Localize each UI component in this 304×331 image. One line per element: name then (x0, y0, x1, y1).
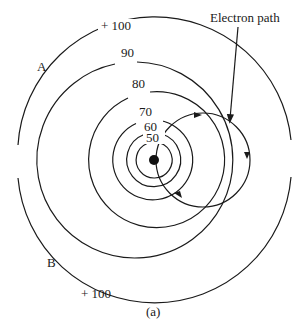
equipotential-diagram: + 100 Electron path A 90 80 70 60 50 B +… (0, 0, 304, 331)
label-50: 50 (146, 130, 159, 145)
direction-arrows (174, 112, 250, 198)
figure-caption: (a) (146, 304, 160, 319)
label-80: 80 (132, 76, 145, 91)
equipotential-100-lower (18, 177, 291, 303)
label-plus100-top: + 100 (101, 18, 131, 33)
arrow-upleft-icon (174, 191, 182, 198)
electron-path (156, 113, 250, 207)
region-label-a: A (37, 59, 47, 74)
arrow-down-icon (244, 152, 250, 159)
label-90: 90 (121, 45, 134, 60)
electron-path-label: Electron path (210, 10, 280, 25)
central-charge (149, 155, 159, 165)
label-70: 70 (139, 104, 152, 119)
region-label-b: B (47, 255, 56, 270)
equipotential-90 (37, 62, 233, 258)
label-plus100-bottom: + 100 (81, 286, 111, 301)
